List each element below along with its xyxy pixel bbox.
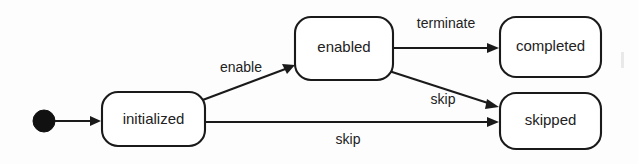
transition-start-to-initialized <box>55 116 101 126</box>
transition-initialized-to-skipped: skip <box>205 117 499 147</box>
state-label: initialized <box>123 110 185 127</box>
state-diagram-canvas: enable terminate skip skip initialized <box>0 0 638 164</box>
transition-label-skip-enabled: skip <box>431 91 456 107</box>
state-skipped[interactable]: skipped <box>500 93 601 149</box>
transition-label-terminate: terminate <box>417 15 476 31</box>
state-label: skipped <box>525 111 577 128</box>
transition-enabled-to-skipped: skip <box>389 71 499 109</box>
transition-label-enable: enable <box>220 59 262 75</box>
transition-initialized-to-enabled: enable <box>200 59 295 101</box>
arrowhead-icon <box>487 117 499 127</box>
state-diagram: enable terminate skip skip initialized <box>0 0 638 164</box>
arrowhead-icon <box>90 116 101 126</box>
initial-state-dot <box>33 110 55 132</box>
state-initialized[interactable]: initialized <box>102 92 205 146</box>
arrowhead-icon <box>487 43 499 53</box>
state-label: completed <box>516 37 585 54</box>
transition-label-skip-initialized: skip <box>336 131 361 147</box>
state-label: enabled <box>317 38 370 55</box>
state-enabled[interactable]: enabled <box>295 17 393 80</box>
transition-enabled-to-completed: terminate <box>393 15 499 53</box>
state-completed[interactable]: completed <box>500 17 601 77</box>
scan-artifact <box>621 52 624 68</box>
arrowhead-icon <box>485 99 499 109</box>
